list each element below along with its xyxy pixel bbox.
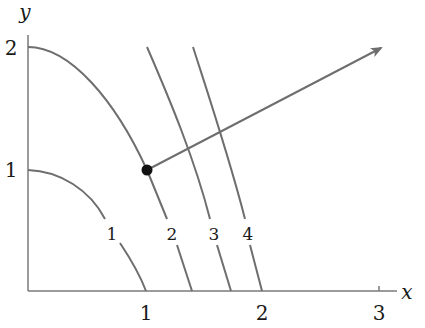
level-curve-label-4: 4 [243,224,254,244]
level-curve-2-lower [177,245,192,291]
y-tick-label-2: 2 [5,36,18,60]
y-axis-label: y [18,0,31,24]
level-curve-label-3: 3 [209,224,220,244]
level-curve-diagram: y x 2 1 1 2 3 1 2 3 4 [0,0,425,328]
base-point [142,165,153,176]
level-curve-2 [28,47,147,170]
x-tick-label-2: 2 [256,301,269,325]
level-curve-3-lower [217,245,231,291]
level-curve-4-lower [250,245,262,291]
x-tick-label-3: 3 [373,301,386,325]
level-curve-1-lower [120,243,146,291]
level-curve-label-2: 2 [167,224,178,244]
y-tick-label-1: 1 [5,158,18,182]
level-curve-2-mid [147,170,167,219]
gradient-arrow [147,48,381,170]
level-curve-1 [28,170,105,219]
level-curve-label-1: 1 [107,224,118,244]
x-axis-label: x [401,280,412,304]
x-tick-label-1: 1 [140,301,153,325]
